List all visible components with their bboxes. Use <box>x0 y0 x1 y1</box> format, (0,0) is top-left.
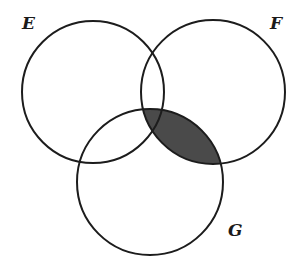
set-label-g: G <box>228 220 243 240</box>
set-label-f: F <box>269 13 284 33</box>
circle-g <box>77 109 223 255</box>
circle-e <box>22 21 164 163</box>
circle-f <box>141 20 285 164</box>
venn-diagram: E F G <box>0 0 297 265</box>
set-label-e: E <box>21 13 36 33</box>
